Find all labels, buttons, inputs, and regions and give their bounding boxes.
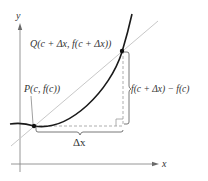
delta-y-label: f(c + Δx) − f(c) bbox=[131, 84, 189, 95]
y-axis-arrow-icon bbox=[18, 23, 22, 30]
point-q-marker bbox=[120, 49, 124, 53]
x-axis-arrow-icon bbox=[152, 162, 159, 166]
x-axis-label: x bbox=[161, 158, 167, 169]
y-axis-label: y bbox=[15, 10, 21, 21]
point-q-label: Q(c + Δx, f(c + Δx)) bbox=[30, 38, 112, 50]
right-angle-marker bbox=[116, 119, 123, 126]
delta-x-brace bbox=[36, 126, 123, 135]
function-curve bbox=[10, 14, 132, 127]
point-p-leader bbox=[31, 96, 33, 124]
delta-x-label: Δx bbox=[73, 136, 86, 148]
point-p-label: P(c, f(c)) bbox=[23, 83, 61, 95]
secant-line-diagram: x y Δx f(c + Δx) − f(c) P(c, f(c)) Q(c +… bbox=[0, 0, 208, 181]
delta-y-brace bbox=[124, 52, 131, 124]
point-p-marker bbox=[32, 124, 36, 128]
